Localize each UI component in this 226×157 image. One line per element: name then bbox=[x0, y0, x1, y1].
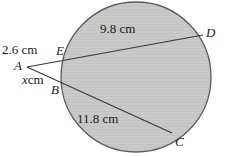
segment-label-ad: 9.8 cm bbox=[100, 22, 135, 35]
point-label-c: C bbox=[175, 135, 184, 148]
segment-label-ab-unit: cm bbox=[28, 72, 44, 87]
point-label-e: E bbox=[56, 44, 64, 57]
segment-label-ab: xcm bbox=[22, 73, 44, 86]
segment-label-ae: 2.6 cm bbox=[2, 43, 37, 56]
point-label-d: D bbox=[206, 26, 215, 39]
point-label-b: B bbox=[51, 83, 59, 96]
circle-shape bbox=[61, 2, 211, 152]
circle-secant-diagram: 2.6 cm E A xcm B 9.8 cm D 11.8 cm C bbox=[0, 0, 226, 157]
point-label-a: A bbox=[14, 59, 22, 72]
segment-label-ac: 11.8 cm bbox=[77, 112, 118, 125]
